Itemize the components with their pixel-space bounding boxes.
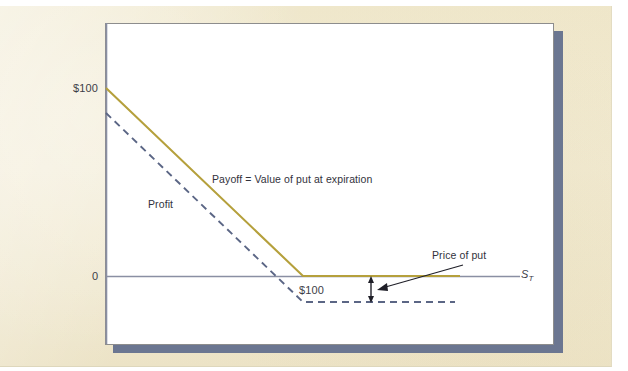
- origin-label: 0: [92, 270, 98, 282]
- x-axis-name-label: ST: [521, 268, 533, 283]
- price-of-put-measure-arrow: [368, 276, 374, 303]
- strike-price-label: $100: [299, 284, 324, 296]
- payoff-line-label: Payoff = Value of put at expiration: [212, 173, 372, 185]
- profit-line-label: Profit: [148, 198, 173, 210]
- plot-graphics: [0, 0, 628, 371]
- x-axis-subscript: T: [528, 274, 533, 283]
- price-of-put-leader-arrow: [377, 265, 463, 291]
- y-axis-value-label: $100: [73, 82, 98, 94]
- price-of-put-label: Price of put: [432, 249, 486, 261]
- figure-root: $100 0 $100 ST Payoff = Value of put at …: [0, 0, 628, 371]
